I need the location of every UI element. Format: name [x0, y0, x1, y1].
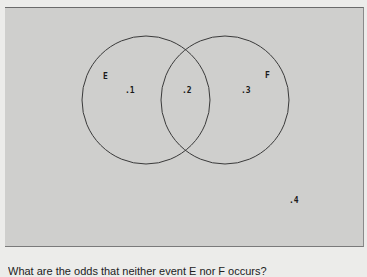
circle-f: [161, 36, 289, 164]
region-f-only-value: .3: [241, 87, 251, 95]
question-caption: What are the odds that neither event E n…: [8, 265, 363, 277]
venn-circles: [5, 8, 363, 246]
region-e-only-value: .1: [125, 87, 135, 95]
region-outside-value: .4: [289, 197, 299, 205]
venn-diagram-panel: E F .1 .2 .3 .4: [5, 7, 364, 247]
set-label-f: F: [265, 72, 270, 80]
set-label-e: E: [103, 73, 108, 81]
region-intersection-value: .2: [182, 87, 192, 95]
circle-e: [82, 36, 210, 164]
